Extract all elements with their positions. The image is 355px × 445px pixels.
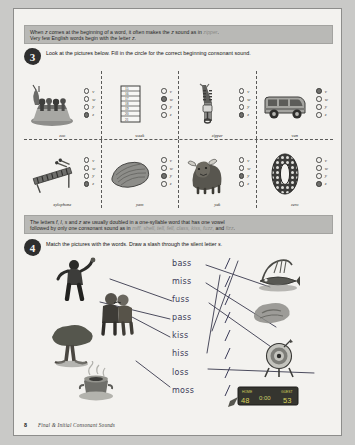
- option-label-z: z: [247, 112, 249, 117]
- bubble-y[interactable]: [84, 173, 90, 179]
- matching-left-pictures: [24, 257, 156, 407]
- word-item[interactable]: moss: [172, 386, 230, 395]
- word-item[interactable]: pass: [172, 313, 230, 322]
- bubble-z[interactable]: [161, 181, 167, 187]
- bubble-v[interactable]: [239, 157, 245, 163]
- bubble-y[interactable]: [84, 104, 90, 110]
- word-item[interactable]: bass: [172, 259, 230, 268]
- word-item[interactable]: kiss: [172, 331, 230, 340]
- van-option-y[interactable]: y: [316, 104, 328, 110]
- caption-yam: yam: [102, 202, 179, 207]
- bubble-w[interactable]: [84, 96, 90, 102]
- van-option-w[interactable]: w: [316, 96, 328, 102]
- yam-option-z[interactable]: z: [161, 181, 173, 187]
- week-option-v[interactable]: v: [161, 88, 173, 94]
- smudge-icon: [250, 299, 294, 327]
- zipper-option-w[interactable]: w: [239, 96, 251, 102]
- bubble-v[interactable]: [161, 88, 167, 94]
- task-4-number-badge: 4: [24, 239, 41, 256]
- bubble-v[interactable]: [161, 157, 167, 163]
- zoo-option-w[interactable]: w: [84, 96, 96, 102]
- van-option-z[interactable]: z: [316, 112, 328, 118]
- yam-option-y[interactable]: y: [161, 173, 173, 179]
- zero-option-z[interactable]: z: [316, 181, 328, 187]
- word-moss: moss: [172, 386, 194, 395]
- bubble-y[interactable]: [239, 173, 245, 179]
- xylophone-option-v[interactable]: v: [84, 157, 96, 163]
- zero-option-w[interactable]: w: [316, 165, 328, 171]
- svg-text:16: 16: [125, 92, 129, 96]
- bubble-y[interactable]: [316, 173, 322, 179]
- task-3-number: 3: [30, 51, 36, 63]
- week-option-z[interactable]: z: [161, 112, 173, 118]
- bubble-w[interactable]: [316, 165, 322, 171]
- task-3-instructions: Look at the pictures below. Fill in the …: [46, 48, 251, 57]
- option-label-y: y: [92, 104, 94, 109]
- yak-option-w[interactable]: w: [239, 165, 251, 171]
- option-label-v: v: [92, 89, 94, 94]
- bubble-w[interactable]: [239, 96, 245, 102]
- bubble-v[interactable]: [316, 88, 322, 94]
- zoo-option-v[interactable]: v: [84, 88, 96, 94]
- bubble-v[interactable]: [239, 88, 245, 94]
- yam-option-w[interactable]: w: [161, 165, 173, 171]
- caption-week: week: [102, 133, 179, 138]
- yak-option-y[interactable]: y: [239, 173, 251, 179]
- option-label-z: z: [247, 181, 249, 186]
- bubble-z[interactable]: [84, 181, 90, 187]
- van-option-v[interactable]: v: [316, 88, 328, 94]
- word-item[interactable]: hiss: [172, 349, 230, 358]
- bubble-z[interactable]: [239, 112, 245, 118]
- bubble-w[interactable]: [161, 165, 167, 171]
- option-label-y: y: [325, 173, 327, 178]
- bubble-w[interactable]: [161, 96, 167, 102]
- yak-option-v[interactable]: v: [239, 157, 251, 163]
- bubble-z[interactable]: [161, 112, 167, 118]
- yak-option-z[interactable]: z: [239, 181, 251, 187]
- word-item[interactable]: loss: [172, 368, 230, 377]
- bubble-z[interactable]: [84, 112, 90, 118]
- bubble-y[interactable]: [316, 104, 322, 110]
- xylophone-option-y[interactable]: y: [84, 173, 96, 179]
- scoreboard-icon: HOME GUEST 48 0:00 53: [226, 385, 302, 411]
- zoo-option-z[interactable]: z: [84, 112, 96, 118]
- word-item[interactable]: fuss: [172, 295, 230, 304]
- word-miss: miss: [172, 277, 192, 286]
- bubble-v[interactable]: [84, 157, 90, 163]
- xylophone-option-z[interactable]: z: [84, 181, 96, 187]
- bubble-w[interactable]: [239, 165, 245, 171]
- bubble-y[interactable]: [161, 173, 167, 179]
- bubble-v[interactable]: [316, 157, 322, 163]
- word-pass: pass: [172, 313, 192, 322]
- zipper-option-y[interactable]: y: [239, 104, 251, 110]
- week-option-y[interactable]: y: [161, 104, 173, 110]
- option-label-v: v: [325, 89, 327, 94]
- zoo-option-y[interactable]: y: [84, 104, 96, 110]
- svg-text:20: 20: [125, 112, 129, 116]
- zipper-option-z[interactable]: z: [239, 112, 251, 118]
- zero-option-v[interactable]: v: [316, 157, 328, 163]
- bubble-w[interactable]: [316, 96, 322, 102]
- option-label-w: w: [170, 166, 173, 171]
- bubble-z[interactable]: [316, 112, 322, 118]
- bubble-y[interactable]: [161, 104, 167, 110]
- option-label-w: w: [92, 166, 95, 171]
- van-icon: [260, 81, 310, 131]
- bubble-y[interactable]: [239, 104, 245, 110]
- yam-option-v[interactable]: v: [161, 157, 173, 163]
- xylophone-options: v w y z: [84, 157, 98, 192]
- zipper-option-v[interactable]: v: [239, 88, 251, 94]
- bubble-w[interactable]: [84, 165, 90, 171]
- word-fuss: fuss: [172, 295, 189, 304]
- xylophone-option-w[interactable]: w: [84, 165, 96, 171]
- bubble-z[interactable]: [316, 181, 322, 187]
- bubble-v[interactable]: [84, 88, 90, 94]
- zero-option-y[interactable]: y: [316, 173, 328, 179]
- option-label-v: v: [247, 158, 249, 163]
- caption-yak: yak: [179, 202, 256, 207]
- word-item[interactable]: miss: [172, 277, 230, 286]
- bubble-z[interactable]: [239, 181, 245, 187]
- week-options: v w y z: [161, 88, 175, 123]
- week-option-w[interactable]: w: [161, 96, 173, 102]
- footer-title: Final & Initial Consonant Sounds: [38, 422, 115, 428]
